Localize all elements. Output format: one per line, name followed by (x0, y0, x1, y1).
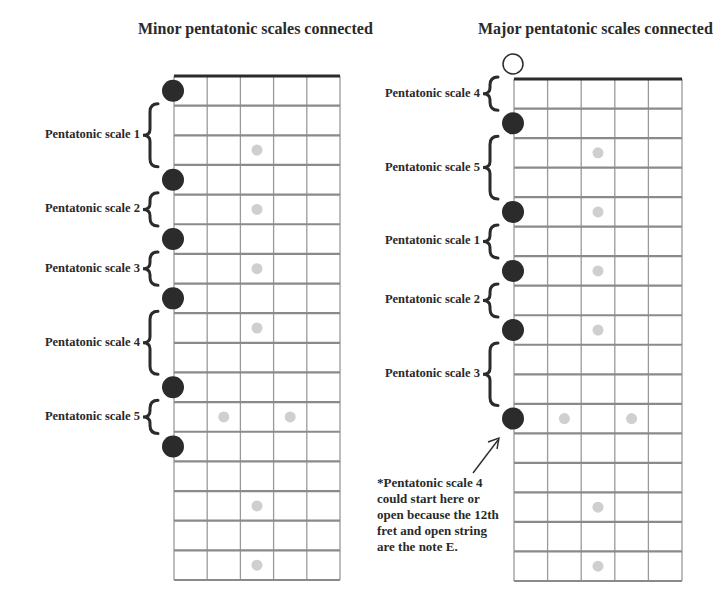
root-note-dot (502, 112, 524, 134)
inlay-dot (626, 413, 637, 424)
scale-label: Pentatonic scale 5 (385, 160, 480, 175)
scale-label: Pentatonic scale 2 (45, 201, 140, 216)
scale-label: Pentatonic scale 5 (45, 409, 140, 424)
footnote-arrow (473, 440, 498, 473)
inlay-dot (559, 413, 570, 424)
root-note-dot (502, 408, 524, 430)
scale-brace (483, 343, 498, 406)
scale-brace (483, 77, 498, 110)
root-note-dot (502, 319, 524, 341)
scale-brace (483, 225, 498, 258)
scale-label: Pentatonic scale 4 (45, 335, 140, 350)
major-fretboard (0, 0, 720, 610)
scale-label: Pentatonic scale 2 (385, 292, 480, 307)
inlay-dot (593, 147, 604, 158)
scale-label: Pentatonic scale 1 (45, 127, 140, 142)
inlay-dot (593, 561, 604, 572)
inlay-dot (593, 206, 604, 217)
inlay-dot (593, 502, 604, 513)
open-root-note (503, 54, 523, 74)
arrowhead-icon (488, 438, 499, 449)
scale-label: Pentatonic scale 1 (385, 233, 480, 248)
footnote-open-position: *Pentatonic scale 4 could start here or … (377, 475, 507, 555)
scale-brace (483, 284, 498, 317)
scale-label: Pentatonic scale 3 (385, 366, 480, 381)
scale-label: Pentatonic scale 4 (385, 86, 480, 101)
inlay-dot (593, 325, 604, 336)
root-note-dot (502, 201, 524, 223)
scale-label: Pentatonic scale 3 (45, 261, 140, 276)
scale-brace (483, 136, 498, 199)
root-note-dot (502, 260, 524, 282)
inlay-dot (593, 265, 604, 276)
